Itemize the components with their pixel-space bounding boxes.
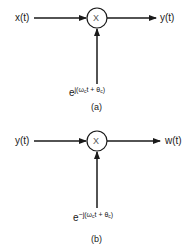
multiply-symbol-a: X	[93, 13, 99, 23]
exp-prefix-a: j(ω	[75, 86, 84, 93]
input-label-b: y(t)	[15, 136, 29, 146]
exp-mid-b: t + θ	[95, 211, 109, 218]
carrier-label-b: e−j(ωct + θc)	[73, 211, 113, 223]
exp-suffix-b: )	[111, 211, 113, 218]
exp-mid-a: t + θ	[86, 86, 100, 93]
caption-b: (b)	[91, 235, 102, 244]
output-label-a: y(t)	[160, 13, 174, 23]
caption-a: (a)	[91, 103, 102, 112]
output-label-b: w(t)	[165, 136, 182, 146]
carrier-label-a: ej(ωct + θc)	[69, 86, 105, 98]
exp-prefix-b: −j(ω	[79, 211, 92, 218]
exp-suffix-a: )	[103, 86, 105, 93]
multiply-symbol-b: X	[93, 136, 99, 146]
input-label-a: x(t)	[15, 13, 29, 23]
